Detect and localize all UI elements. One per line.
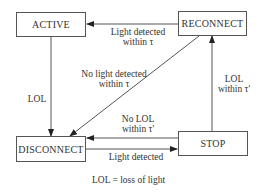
label-stop-to-disconnect: No LOL within τ'	[110, 114, 166, 134]
state-reconnect-label: RECONNECT	[182, 18, 244, 29]
state-stop: STOP	[178, 131, 248, 156]
label-reconnect-to-active: Light detected within τ	[98, 27, 178, 47]
label-disconnect-to-stop: Light detected	[96, 152, 176, 162]
legend: LOL = loss of light	[92, 175, 165, 185]
label-stop-to-reconnect: LOL within τ'	[214, 74, 254, 94]
state-stop-label: STOP	[200, 138, 225, 149]
state-disconnect: DISCONNECT	[16, 136, 86, 162]
state-disconnect-label: DISCONNECT	[18, 144, 83, 155]
state-active-label: ACTIVE	[32, 19, 70, 30]
state-active: ACTIVE	[16, 12, 86, 37]
label-reconnect-to-disconnect: No light detected within τ	[72, 69, 156, 89]
state-reconnect: RECONNECT	[178, 11, 247, 36]
label-active-to-disconnect: LOL	[26, 94, 48, 104]
